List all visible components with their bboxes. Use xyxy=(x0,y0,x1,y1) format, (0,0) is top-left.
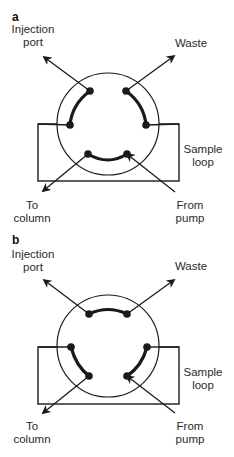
sample-loop-label-line1: Sample xyxy=(183,143,223,156)
to-column-label-line1: To xyxy=(12,199,52,212)
sample-loop-label-a: Sample loop xyxy=(183,143,223,169)
to-column-label-line2: column xyxy=(12,433,52,446)
injection-port-label-line1: Injection xyxy=(8,23,58,36)
sample-loop-label-line2: loop xyxy=(183,156,223,169)
sample-loop-label-b: Sample loop xyxy=(183,366,223,392)
panel-b-valve xyxy=(38,280,179,413)
from-pump-label-b: From pump xyxy=(172,420,208,446)
panel-a-valve xyxy=(38,56,179,192)
waste-line-a xyxy=(126,56,174,91)
from-pump-label-line1: From xyxy=(172,199,208,212)
waste-label-b: Waste xyxy=(174,260,208,273)
to-column-label-b: To column xyxy=(12,420,52,446)
panel-letter-a: a xyxy=(12,10,19,24)
injection-port-label-b: Injection port xyxy=(8,248,58,274)
injection-port-line-a xyxy=(44,57,90,91)
sample-loop-label-line2: loop xyxy=(183,379,223,392)
panel-letter-b: b xyxy=(12,233,19,247)
sample-loop-label-line1: Sample xyxy=(183,366,223,379)
waste-line-b xyxy=(127,280,174,314)
from-pump-label-line2: pump xyxy=(172,212,208,225)
waste-label-a: Waste xyxy=(174,37,208,50)
injection-port-label-line2: port xyxy=(8,261,58,274)
from-pump-label-a: From pump xyxy=(172,199,208,225)
to-column-label-a: To column xyxy=(12,199,52,225)
to-column-label-line1: To xyxy=(12,420,52,433)
injection-port-label-a: Injection port xyxy=(8,23,58,49)
to-column-label-line2: column xyxy=(12,212,52,225)
from-pump-label-line1: From xyxy=(172,420,208,433)
injection-port-label-line2: port xyxy=(8,36,58,49)
injection-port-line-b xyxy=(44,280,89,314)
injection-port-label-line1: Injection xyxy=(8,248,58,261)
from-pump-label-line2: pump xyxy=(172,433,208,446)
